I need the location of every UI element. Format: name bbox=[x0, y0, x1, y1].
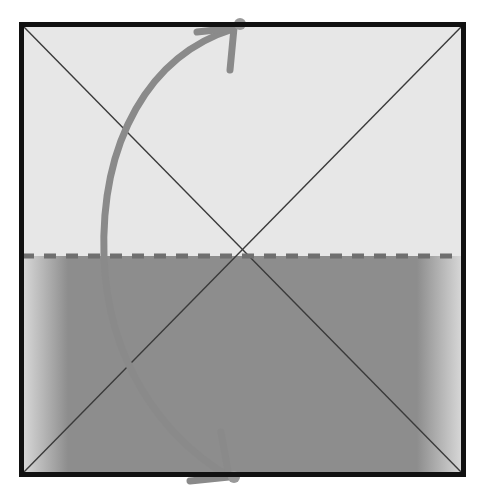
diagram-canvas bbox=[0, 0, 483, 491]
upper-light-region bbox=[22, 25, 463, 256]
dark-region-right-fade bbox=[417, 256, 463, 474]
diagram-svg bbox=[0, 0, 483, 491]
dark-region-left-fade bbox=[22, 256, 68, 474]
dark-region-bottom-fade bbox=[22, 440, 463, 474]
